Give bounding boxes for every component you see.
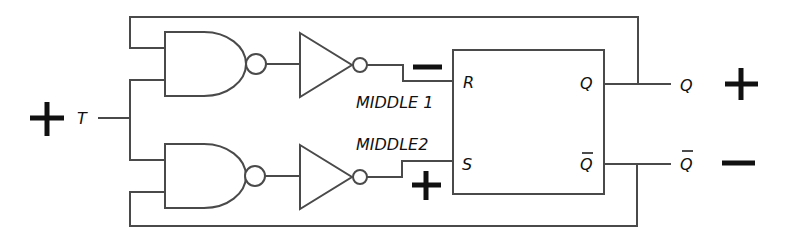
flipflop-qbar-pin: Q — [580, 155, 593, 174]
middle2-label: MIDDLE2 — [356, 135, 428, 154]
circuit-diagram: T MIDDLE 1 MIDDLE2 R S Q Q — [0, 0, 786, 241]
flipflop-r-pin: R — [463, 73, 474, 92]
output-q-polarity-plus — [725, 68, 758, 100]
input-t-split-wire — [130, 80, 165, 160]
input-t-polarity-plus — [30, 102, 64, 136]
flipflop-q-pin: Q — [580, 74, 593, 93]
input-t-label: T — [77, 109, 88, 128]
output-qbar-label: Q — [680, 155, 693, 174]
nand-gate-bottom — [165, 144, 265, 208]
middle2-polarity-plus — [412, 171, 441, 200]
output-q-label: Q — [680, 76, 693, 95]
nand-gate-top — [165, 32, 266, 96]
middle1-label: MIDDLE 1 — [356, 93, 433, 112]
flipflop-s-pin: S — [462, 155, 472, 174]
inverter-top — [300, 33, 367, 97]
inverter-bottom — [300, 145, 367, 209]
middle2-wire — [367, 161, 453, 177]
